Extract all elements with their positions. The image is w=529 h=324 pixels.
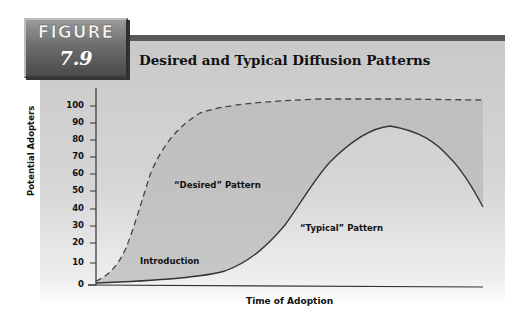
y-tick-70: 70 xyxy=(54,151,84,161)
desired-pattern-label: “Desired” Pattern xyxy=(174,180,261,190)
y-tick-10: 10 xyxy=(54,257,84,267)
y-tick-100: 100 xyxy=(54,100,84,110)
y-tick-20: 20 xyxy=(54,237,84,247)
x-axis-label: Time of Adoption xyxy=(246,296,333,306)
typical-pattern-label: “Typical” Pattern xyxy=(300,223,383,233)
x-axis xyxy=(88,285,483,287)
introduction-label: Introduction xyxy=(140,256,199,266)
y-tick-90: 90 xyxy=(54,117,84,127)
y-tick-0: 0 xyxy=(54,279,84,289)
y-tick-30: 30 xyxy=(54,220,84,230)
y-tick-80: 80 xyxy=(54,134,84,144)
y-ticks xyxy=(88,106,96,285)
y-tick-50: 50 xyxy=(54,185,84,195)
y-tick-40: 40 xyxy=(54,203,84,213)
chart-plot xyxy=(0,0,529,324)
y-axis-label: Potential Adopters xyxy=(26,106,36,196)
y-tick-60: 60 xyxy=(54,168,84,178)
